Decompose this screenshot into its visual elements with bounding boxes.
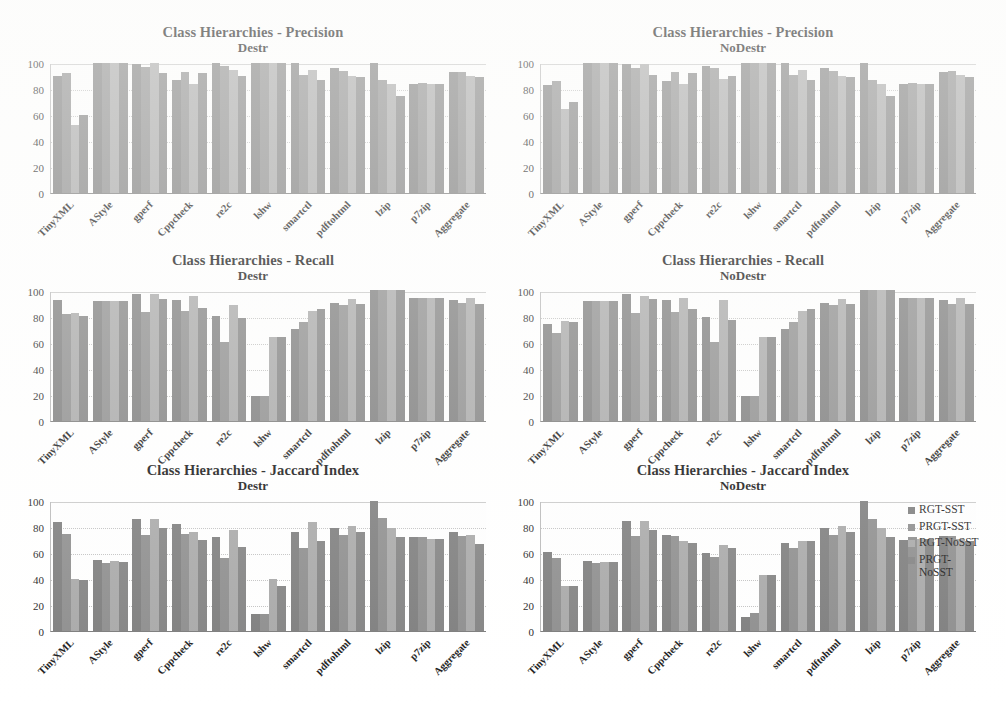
bar (807, 80, 816, 193)
y-tick-label: 80 (33, 313, 44, 324)
bar-group (541, 64, 581, 193)
x-label-cell: TinyXML (540, 197, 580, 243)
y-axis-recall-nodestr: 100806040200 (508, 292, 538, 422)
bar (750, 396, 759, 421)
legend-swatch-icon (908, 540, 915, 547)
bar (640, 64, 649, 193)
x-axis-tick-label-text: p7zip (897, 637, 922, 662)
bar (220, 342, 229, 421)
bar-group (407, 502, 447, 631)
bar (631, 68, 640, 193)
bar (741, 617, 750, 631)
bar (198, 73, 207, 193)
chart-title-recall-destr: Class Hierarchies - Recall (18, 252, 488, 268)
bar (741, 396, 750, 421)
x-label-cell: pdftohtml (817, 197, 857, 243)
bar (62, 534, 71, 632)
bar (728, 548, 737, 631)
bar (150, 63, 159, 193)
chart-subtitle-jaccard-nodestr: NoDestr (508, 478, 978, 493)
bar-group (407, 64, 447, 193)
chart-title-precision-nodestr: Class Hierarchies - Precision (508, 24, 978, 40)
y-tick-label: 100 (518, 59, 535, 70)
bar (119, 301, 128, 421)
bar (475, 77, 484, 193)
bar (229, 70, 238, 194)
y-tick-label: 20 (33, 163, 44, 174)
x-label-cell: Cppcheck (169, 635, 209, 681)
bar (939, 300, 948, 421)
bar (339, 305, 348, 421)
bar (561, 109, 570, 194)
bar (62, 73, 71, 193)
chart-subtitle-jaccard-destr: Destr (18, 478, 488, 493)
bar (427, 298, 436, 422)
bar (781, 543, 790, 631)
x-axis-tick-label-text: lshw (252, 427, 274, 449)
bar (908, 298, 917, 422)
bar (269, 337, 278, 422)
x-axis-tick-label-text: lzip (373, 637, 392, 656)
bar (339, 71, 348, 193)
chart-title-recall-nodestr: Class Hierarchies - Recall (508, 252, 978, 268)
chart-panel-recall-nodestr: Class Hierarchies - RecallNoDestr1008060… (508, 252, 978, 283)
bar (789, 548, 798, 631)
plot-wrap-recall-nodestr: 100806040200 (508, 292, 978, 422)
bar (356, 304, 365, 421)
x-label-cell: lshw (248, 197, 288, 243)
bar (387, 528, 396, 631)
chart-panel-jaccard-nodestr: Class Hierarchies - Jaccard IndexNoDestr… (508, 462, 978, 493)
y-tick-label: 0 (529, 627, 535, 638)
bar (789, 322, 798, 421)
x-axis-tick-label-text: re2c (703, 637, 724, 658)
bar-group (249, 64, 289, 193)
x-label-cell: TinyXML (50, 197, 90, 243)
x-axis-tick-label-text: AStyle (576, 199, 605, 228)
bar (899, 84, 908, 193)
bar (679, 298, 688, 422)
bar (291, 532, 300, 631)
chart-panel-precision-destr: Class Hierarchies - PrecisionDestr100806… (18, 24, 488, 55)
chart-panel-precision-nodestr: Class Hierarchies - PrecisionNoDestr1008… (508, 24, 978, 55)
bar (260, 614, 269, 631)
bar (150, 519, 159, 631)
bar (229, 530, 238, 631)
y-tick-label: 100 (28, 497, 45, 508)
y-axis-precision-nodestr: 100806040200 (508, 64, 538, 194)
bar (181, 311, 190, 422)
bar (449, 532, 458, 631)
bar-group (130, 502, 170, 631)
bar (552, 333, 561, 421)
x-axis-tick-label-text: lzip (863, 637, 882, 656)
bar-group (249, 502, 289, 631)
bar (719, 545, 728, 631)
bar (592, 563, 601, 631)
x-axis-tick-label-text: p7zip (407, 637, 432, 662)
bar (102, 563, 111, 631)
x-label-cell: AStyle (580, 197, 620, 243)
legend-label: PRGT-NoSST (919, 553, 981, 580)
chart-panel-recall-destr: Class Hierarchies - RecallDestr100806040… (18, 252, 488, 283)
y-tick-label: 60 (523, 549, 534, 560)
x-axis-tick-label-text: gperf (620, 637, 645, 662)
bar (600, 63, 609, 193)
y-tick-label: 0 (39, 417, 45, 428)
bar (172, 524, 181, 631)
x-axis-tick-label-text: re2c (213, 199, 234, 220)
bar (622, 64, 631, 193)
x-axis-tick-label-text: TinyXML (526, 427, 566, 467)
bar (189, 84, 198, 193)
x-label-cell: lzip (367, 635, 407, 681)
bar-group (51, 502, 91, 631)
legend-label: PRGT-SST (919, 520, 971, 534)
bar (110, 561, 119, 631)
bar (886, 290, 895, 421)
bar-group (936, 292, 976, 421)
bar (238, 547, 247, 632)
y-tick-label: 80 (523, 313, 534, 324)
bar (561, 586, 570, 632)
y-tick-label: 40 (33, 365, 44, 376)
x-axis-tick-label-text: lshw (252, 637, 274, 659)
y-tick-label: 60 (33, 339, 44, 350)
x-axis-tick-label-text: lzip (373, 427, 392, 446)
